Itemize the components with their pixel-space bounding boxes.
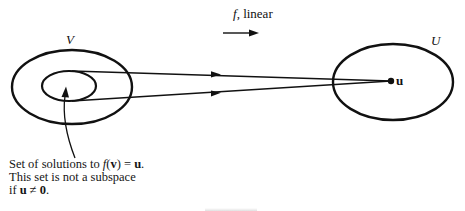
point-u-dot [388,78,394,84]
pointer-arrow-icon [62,87,76,159]
vector-space-v-ellipse [12,50,132,124]
solution-set-caption: Set of solutions to f(v) = u. This set i… [9,158,144,197]
mapping-line-upper [72,71,391,81]
cropped-figure-number [205,208,257,211]
set-label-v: V [66,33,74,46]
point-label-u: u [396,74,403,87]
set-label-u: U [431,34,440,47]
arrow-label: f, linear [233,7,273,20]
mapping-line-lower [72,81,391,101]
solution-set-ellipse [42,71,96,101]
caption-line-3: if u ≠ 0. [9,184,144,197]
linear-map-arrow-icon [223,30,259,37]
arrow-label-text: , linear [237,6,273,21]
